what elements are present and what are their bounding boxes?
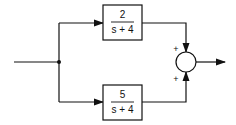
bottom-block-numerator: 5 [120, 89, 126, 100]
top-block-denominator: s + 4 [112, 24, 134, 35]
top-path-to-sum [142, 23, 186, 52]
top-block-numerator: 2 [120, 9, 126, 20]
bottom-input-sign: + [173, 74, 178, 84]
summing-junction [176, 52, 196, 72]
transfer-block-top: 2 s + 4 [103, 5, 142, 40]
bottom-path-to-sum [142, 72, 186, 102]
transfer-block-bottom: 5 s + 4 [103, 85, 142, 120]
block-diagram: 2 s + 4 5 s + 4 + + [0, 0, 236, 125]
bottom-block-denominator: s + 4 [112, 104, 134, 115]
top-input-sign: + [173, 44, 178, 54]
